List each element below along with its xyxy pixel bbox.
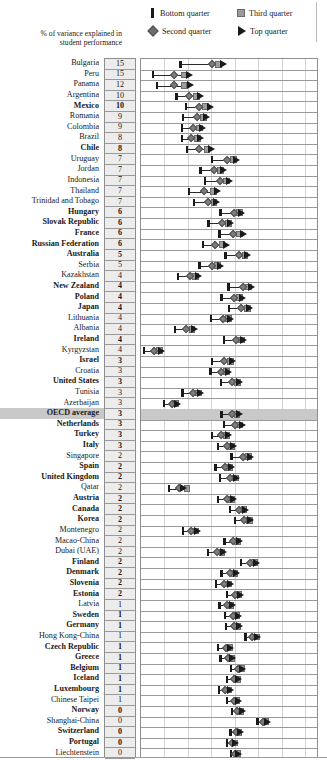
legend-label: Third quarter (249, 9, 292, 18)
marker-top-quarter (229, 357, 236, 365)
country-label: Portugal (0, 738, 104, 746)
table-row: 7 (105, 165, 135, 176)
table-row: Thailand (0, 185, 104, 196)
country-label: Bulgaria (0, 59, 104, 67)
table-row: Shanghai-China (0, 716, 104, 727)
table-row: Macao-China (0, 535, 104, 546)
marker-top-quarter (236, 378, 243, 386)
country-label: Lithuania (0, 314, 104, 322)
table-row: United Kingdom (0, 472, 104, 483)
marker-bottom-quarter (193, 199, 195, 206)
marker-top-quarter (197, 92, 204, 100)
table-row: 1 (105, 600, 135, 611)
country-label: Italy (0, 441, 104, 449)
table-row: 0 (105, 717, 135, 728)
table-row: Argentina (0, 90, 104, 101)
table-row: Latvia (0, 599, 104, 610)
country-label: Sweden (0, 611, 104, 619)
table-row: 2 (105, 579, 135, 590)
table-row: Norway (0, 705, 104, 716)
marker-bottom-quarter (198, 262, 200, 269)
country-label: Spain (0, 462, 104, 470)
table-row: Russian Federation (0, 238, 104, 249)
country-label: Belgium (0, 664, 104, 672)
marker-bottom-quarter (226, 591, 228, 598)
row-separator (141, 345, 317, 346)
table-row: 2 (105, 557, 135, 568)
table-row: Sweden (0, 610, 104, 621)
row-separator (141, 123, 317, 124)
variance-value: 2 (105, 451, 135, 462)
table-row: 3 (105, 388, 135, 399)
country-label: Croatia (0, 367, 104, 375)
table-row: Albania (0, 323, 104, 334)
marker-top-quarter (228, 463, 235, 471)
marker-bottom-quarter (224, 612, 226, 619)
marker-bottom-quarter (234, 517, 236, 524)
table-row: 4 (105, 324, 135, 335)
table-row: Mexico (0, 100, 104, 111)
marker-bottom-quarter (182, 527, 184, 534)
marker-top-quarter (232, 739, 239, 747)
row-separator (141, 207, 317, 208)
marker-top-quarter (244, 251, 251, 259)
table-row: 15 (105, 59, 135, 70)
table-row: 2 (105, 547, 135, 558)
country-label: Canada (0, 505, 104, 513)
table-row: 2 (105, 473, 135, 484)
country-label: Slovak Republic (0, 218, 104, 226)
table-row: 15 (105, 70, 135, 81)
marker-bottom-quarter (204, 177, 206, 184)
marker-top-quarter (240, 230, 247, 238)
marker-bottom-quarter (177, 273, 179, 280)
marker-bottom-quarter (185, 103, 187, 110)
table-row: 3 (105, 398, 135, 409)
country-label: Ireland (0, 335, 104, 343)
table-row: Luxembourg (0, 684, 104, 695)
table-row: 3 (105, 409, 135, 420)
row-separator (141, 292, 317, 293)
variance-value: 3 (105, 377, 135, 388)
variance-value: 2 (105, 536, 135, 547)
table-row: Turkey (0, 429, 104, 440)
country-label: Singapore (0, 452, 104, 460)
table-row: Tunisia (0, 387, 104, 398)
table-row: 6 (105, 218, 135, 229)
marker-top-quarter (226, 177, 233, 185)
marker-top-quarter (187, 81, 194, 89)
marker-bottom-quarter (223, 336, 225, 343)
country-label: Uruguay (0, 155, 104, 163)
row-separator (141, 494, 317, 495)
marker-bottom-quarter (219, 209, 221, 216)
country-label: Indonesia (0, 176, 104, 184)
marker-bottom-quarter (211, 432, 213, 439)
variance-value: 6 (105, 218, 135, 229)
marker-top-quarter (233, 156, 240, 164)
table-row: Portugal (0, 737, 104, 748)
table-row: 9 (105, 112, 135, 123)
marker-top-quarter (247, 453, 254, 461)
row-separator (141, 547, 317, 548)
marker-top-quarter (236, 622, 243, 630)
variance-value: 1 (105, 695, 135, 706)
variance-value: 2 (105, 526, 135, 537)
square-icon (237, 9, 245, 17)
table-row: 5 (105, 261, 135, 272)
country-label: United States (0, 377, 104, 385)
row-separator (141, 674, 317, 675)
table-row: 4 (105, 292, 135, 303)
variance-value: 3 (105, 409, 135, 420)
table-row: 1 (105, 611, 135, 622)
variance-value: 3 (105, 430, 135, 441)
country-label: Jordan (0, 165, 104, 173)
variance-value-column: 1515121010998877777666655444444443333333… (104, 58, 136, 758)
marker-second-quarter (195, 145, 204, 154)
variance-value: 7 (105, 165, 135, 176)
country-label: Slovenia (0, 579, 104, 587)
variance-value: 4 (105, 292, 135, 303)
legend-item-third-quarter: Third quarter (236, 9, 313, 18)
table-row: Finland (0, 556, 104, 567)
table-row: France (0, 228, 104, 239)
marker-bottom-quarter (218, 602, 220, 609)
marker-top-quarter (223, 241, 230, 249)
